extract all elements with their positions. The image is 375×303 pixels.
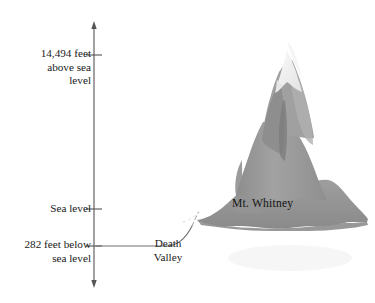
axis-label-summit: 14,494 feet above sea level (5, 47, 91, 88)
valley-ramp-speckle (183, 214, 197, 222)
scan-smudge (228, 245, 352, 271)
valley-ramp-fade (192, 212, 199, 226)
feature-label-mt-whitney: Mt. Whitney (232, 197, 293, 211)
axis-arrow-up-icon (91, 21, 96, 29)
axis-arrow-down-icon (91, 280, 96, 288)
mt-whitney-illustration (197, 43, 368, 271)
axis-label-below-sea-level: 282 feet below sea level (0, 238, 91, 265)
feature-label-death-valley: Death Valley (136, 236, 200, 264)
axis-label-sea-level: Sea level (5, 202, 91, 216)
elevation-diagram: 14,494 feet above sea level Sea level 28… (0, 0, 375, 303)
